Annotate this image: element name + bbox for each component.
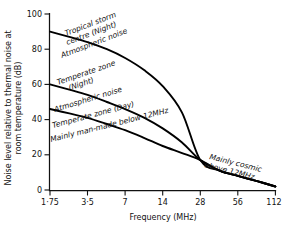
noise-level-chart: 100 80 60 40 20 0 1·75 3·5 7 14 28 56 11…	[0, 0, 293, 228]
x-tick-label: 112	[266, 198, 281, 207]
x-tick-label: 1·75	[41, 198, 59, 207]
x-tick-label: 28	[195, 198, 205, 207]
x-tick-label: 14	[158, 198, 168, 207]
x-tick-label: 56	[233, 198, 243, 207]
y-tick-label: 100	[27, 10, 42, 19]
y-tick-label: 40	[32, 115, 42, 124]
x-axis-title: Frequency (MHz)	[129, 213, 196, 222]
x-tick-label: 7	[123, 198, 128, 207]
x-tick-label: 3·5	[81, 198, 94, 207]
y-axis-title-line2: room temperature (dB)	[14, 62, 23, 155]
y-tick-label: 0	[37, 186, 42, 195]
y-tick-label: 20	[32, 150, 42, 159]
y-axis-title-line1: Noise level relative to thermal noise at	[4, 30, 13, 185]
y-tick-label: 60	[32, 80, 42, 89]
chart-canvas: 100 80 60 40 20 0 1·75 3·5 7 14 28 56 11…	[0, 0, 293, 228]
y-tick-label: 80	[32, 45, 42, 54]
